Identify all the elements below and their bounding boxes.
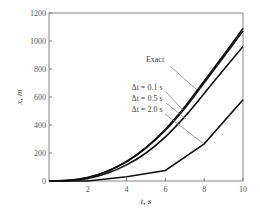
y-tick-label: 0	[42, 177, 46, 186]
y-tick-label: 800	[34, 65, 46, 74]
x-tick-label: 10	[239, 185, 247, 194]
y-tick-label: 600	[34, 93, 46, 102]
x-tick-label: 4	[125, 185, 129, 194]
series-annotation: Δt = 0.1 s	[132, 83, 163, 92]
x-tick-label: 6	[163, 185, 167, 194]
series-annotation: Δt = 0.5 s	[132, 94, 163, 103]
y-tick-label: 400	[34, 121, 46, 130]
y-tick-label: 1200	[30, 9, 46, 18]
x-tick-label: 8	[202, 185, 206, 194]
series-annotation: Exact	[146, 55, 165, 64]
y-tick-label: 200	[34, 149, 46, 158]
y-tick-label: 1000	[30, 37, 46, 46]
x-axis-label: t, s	[141, 196, 152, 206]
x-tick-label: 2	[86, 185, 90, 194]
y-axis-label: x, m	[14, 89, 24, 105]
annotations: ExactΔt = 0.1 sΔt = 0.5 sΔt = 2.0 s	[132, 55, 205, 144]
series-annotation: Δt = 2.0 s	[132, 105, 163, 114]
chart: 020040060080010001200246810 ExactΔt = 0.…	[0, 0, 260, 211]
